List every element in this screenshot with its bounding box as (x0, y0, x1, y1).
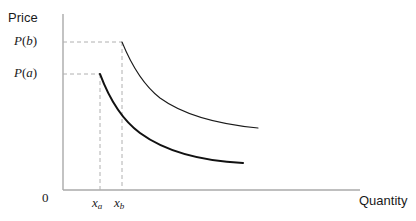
price-axis-label: Price (8, 11, 38, 24)
x-tick-xb-base: x (114, 195, 120, 210)
origin-label: 0 (42, 191, 49, 204)
x-tick-xa-base: x (92, 195, 98, 210)
demand-curve-lower (100, 74, 243, 163)
x-tick-label-xb: xb (114, 196, 124, 209)
y-tick-label-pb: P(b) (14, 34, 37, 47)
x-tick-xa-subscript: a (98, 201, 103, 211)
y-tick-pa-function: P (14, 65, 22, 80)
x-tick-label-xa: xa (92, 196, 102, 209)
quantity-axis-label: Quantity (359, 194, 407, 207)
price-quantity-figure: Price Quantity P(b) P(a) xa xb 0 (0, 0, 416, 221)
y-tick-label-pa: P(a) (14, 66, 37, 79)
y-tick-pb-close-paren: ) (33, 33, 37, 48)
plot-area (0, 0, 416, 221)
x-tick-xb-subscript: b (120, 201, 125, 211)
y-tick-pa-close-paren: ) (33, 65, 37, 80)
y-tick-pb-function: P (14, 33, 22, 48)
demand-curve-upper (122, 42, 258, 128)
